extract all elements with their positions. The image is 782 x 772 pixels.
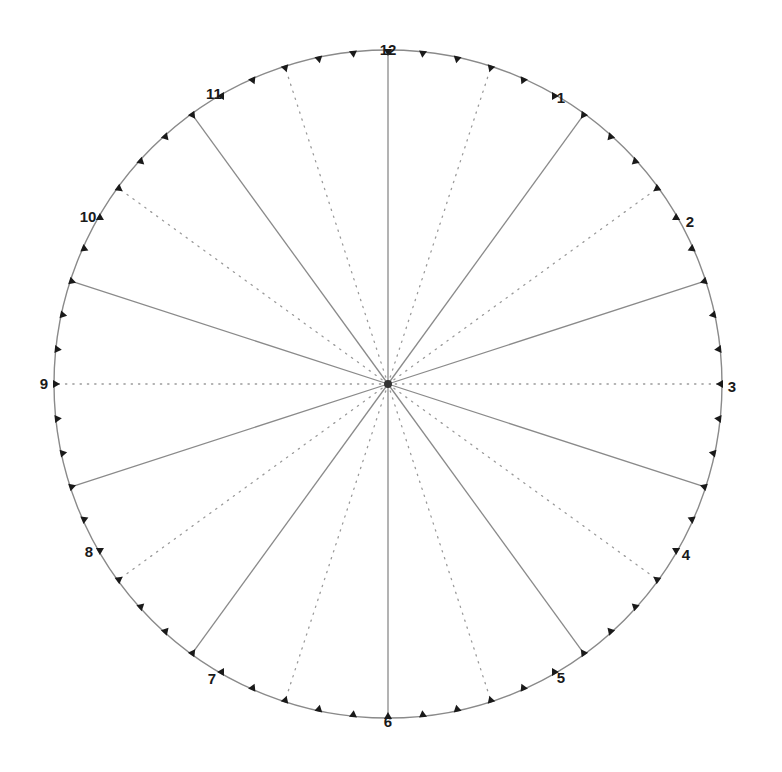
minute-tick-icon	[578, 111, 589, 121]
hour-label-5: 5	[557, 669, 565, 686]
hour-label-9: 9	[40, 375, 48, 392]
minute-tick-icon	[349, 50, 358, 58]
dotted-line-306	[118, 188, 388, 384]
minute-tick-icon	[115, 184, 125, 195]
hour-label-12: 12	[380, 41, 397, 58]
minute-tick-icon	[248, 682, 258, 692]
minute-tick-icon	[136, 601, 147, 612]
minute-tick-icon	[54, 345, 62, 354]
solid-line-108	[388, 384, 706, 487]
minute-tick-icon	[418, 50, 427, 58]
clock-diagram: 121234567891011	[0, 0, 782, 772]
minute-tick-icon	[629, 157, 640, 168]
minute-tick-icon	[651, 184, 661, 195]
minute-tick-icon	[53, 380, 60, 388]
solid-line-144	[388, 384, 584, 654]
minute-tick-icon	[578, 647, 589, 657]
hour-label-3: 3	[728, 378, 736, 395]
minute-tick-icon	[161, 625, 172, 636]
hour-label-4: 4	[682, 546, 691, 563]
minute-tick-icon	[605, 132, 616, 143]
minute-tick-icon	[686, 514, 696, 524]
minute-tick-icon	[115, 574, 125, 585]
minute-tick-icon	[54, 414, 62, 423]
solid-line-72	[388, 281, 706, 384]
minute-tick-icon	[651, 574, 661, 585]
minute-tick-icon	[418, 710, 427, 718]
solid-line-324	[192, 114, 388, 384]
solid-line-36	[388, 114, 584, 384]
hour-label-1: 1	[557, 89, 565, 106]
dotted-line-342	[285, 66, 388, 384]
solid-line-252	[70, 384, 388, 487]
minute-tick-icon	[188, 647, 199, 657]
minute-tick-icon	[518, 682, 528, 692]
minute-tick-icon	[518, 76, 528, 86]
minute-tick-icon	[161, 132, 172, 143]
minute-tick-icon	[80, 514, 90, 524]
hour-label-6: 6	[384, 713, 392, 730]
dotted-line-198	[285, 384, 388, 702]
minute-tick-icon	[714, 345, 722, 354]
minute-tick-icon	[714, 414, 722, 423]
hour-label-8: 8	[85, 543, 93, 560]
minute-tick-icon	[248, 76, 258, 86]
minute-tick-icon	[136, 157, 147, 168]
minute-tick-icon	[629, 601, 640, 612]
minute-tick-icon	[349, 710, 358, 718]
dotted-line-126	[388, 384, 658, 580]
solid-line-288	[70, 281, 388, 384]
minute-tick-icon	[188, 111, 199, 121]
dotted-line-18	[388, 66, 491, 384]
dotted-line-54	[388, 188, 658, 384]
minute-tick-icon	[80, 244, 90, 254]
hour-label-10: 10	[80, 208, 97, 225]
minute-tick-icon	[605, 625, 616, 636]
dotted-line-162	[388, 384, 491, 702]
dotted-line-234	[118, 384, 388, 580]
hour-label-7: 7	[208, 670, 216, 687]
solid-line-216	[192, 384, 388, 654]
minute-tick-icon	[686, 244, 696, 254]
hour-label-11: 11	[206, 85, 222, 102]
hour-label-2: 2	[686, 213, 694, 230]
minute-tick-icon	[716, 380, 723, 388]
center-hub	[384, 380, 392, 388]
